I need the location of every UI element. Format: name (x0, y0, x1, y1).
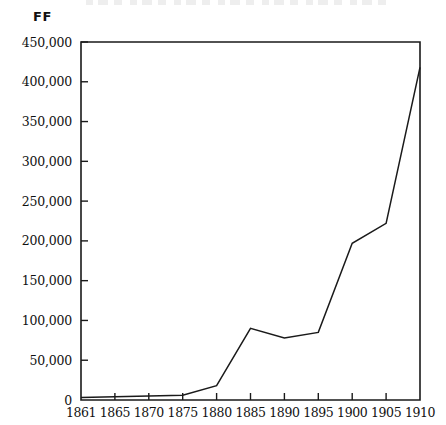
data-series-line (81, 67, 420, 397)
y-axis-tick-label: 400,000 (22, 74, 73, 89)
x-axis-tick-label: 1875 (168, 405, 198, 420)
x-axis-tick-label: 1865 (100, 405, 130, 420)
y-axis-tick-label: 350,000 (22, 114, 73, 129)
x-axis-tick-label: 1905 (371, 405, 401, 420)
x-axis-tick-label: 1870 (134, 405, 165, 420)
x-axis-tick-label: 1885 (235, 405, 265, 420)
y-axis-tick-label: 150,000 (22, 273, 73, 288)
x-axis-tick-label: 1895 (303, 405, 333, 420)
line-chart-plot: 050,000100,000150,000200,000250,000300,0… (0, 0, 446, 425)
plot-frame (81, 42, 420, 400)
y-axis-tick-label: 450,000 (22, 35, 73, 50)
x-axis-tick-label: 1890 (269, 405, 300, 420)
chart-container: FF 050,000100,000150,000200,000250,00030… (0, 0, 446, 425)
y-axis-tick-label: 100,000 (22, 313, 73, 328)
x-axis-tick-label: 1861 (66, 405, 96, 420)
y-axis-tick-labels: 050,000100,000150,000200,000250,000300,0… (22, 35, 73, 408)
y-axis-tick-label: 200,000 (22, 233, 73, 248)
x-axis-tick-label: 1880 (201, 405, 232, 420)
x-axis-tick-label: 1900 (337, 405, 368, 420)
y-axis-tick-label: 250,000 (22, 194, 73, 209)
x-axis-tick-labels: 1861186518701875188018851890189519001905… (66, 405, 436, 420)
y-axis-tick-label: 50,000 (29, 353, 72, 368)
y-axis-tick-label: 300,000 (22, 154, 73, 169)
y-axis-tick-marks (81, 42, 88, 360)
x-axis-tick-label: 1910 (405, 405, 436, 420)
